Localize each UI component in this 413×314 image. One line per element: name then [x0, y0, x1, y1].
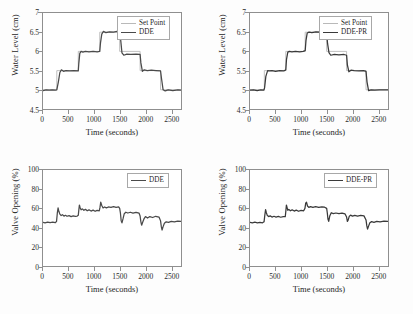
x-tick-mark — [42, 110, 43, 114]
series-set-point — [43, 32, 181, 90]
x-tick-mark — [94, 110, 95, 114]
x-axis-label: Time (seconds) — [42, 127, 182, 137]
x-tick-mark — [379, 110, 380, 114]
x-tick-label: 500 — [269, 115, 280, 124]
x-tick-label: 1500 — [319, 115, 334, 124]
legend-swatch — [121, 32, 136, 33]
x-tick-mark — [120, 267, 121, 271]
x-tick-labels: 05001000150020002500 — [42, 111, 182, 124]
x-tick-label: 1500 — [319, 272, 334, 281]
x-tick-label: 1500 — [112, 272, 127, 281]
y-tick-labels: 4.555.566.57 — [0, 12, 42, 110]
x-tick-label: 500 — [62, 272, 73, 281]
x-tick-label: 0 — [247, 115, 251, 124]
y-tick-label: 60 — [2, 204, 42, 213]
legend-label: DDE — [139, 28, 154, 37]
x-tick-mark — [68, 267, 69, 271]
y-tick-label: 5 — [209, 86, 249, 95]
y-tick-label: 40 — [2, 223, 42, 232]
legend-entry: DDE — [131, 176, 164, 185]
x-tick-label: 2500 — [371, 272, 386, 281]
y-tick-label: 6.5 — [209, 27, 249, 36]
y-tick-label: 20 — [209, 243, 249, 252]
x-tick-label: 2000 — [345, 272, 360, 281]
y-tick-label: 100 — [2, 165, 42, 174]
y-tick-label: 0 — [2, 263, 42, 272]
y-tick-label: 40 — [209, 223, 249, 232]
x-tick-label: 2000 — [138, 272, 153, 281]
x-tick-mark — [353, 110, 354, 114]
x-tick-mark — [94, 267, 95, 271]
y-tick-labels: 4.555.566.57 — [207, 12, 249, 110]
x-tick-mark — [146, 267, 147, 271]
x-tick-mark — [120, 110, 121, 114]
legend: Set PointDDE — [117, 16, 170, 40]
x-tick-label: 500 — [269, 272, 280, 281]
x-tick-mark — [275, 267, 276, 271]
x-tick-labels: 05001000150020002500 — [249, 268, 389, 281]
legend-entry: Set Point — [323, 19, 367, 28]
x-tick-mark — [301, 267, 302, 271]
x-tick-mark — [379, 267, 380, 271]
x-tick-labels: 05001000150020002500 — [42, 268, 182, 281]
y-tick-label: 4.5 — [2, 106, 42, 115]
legend: Set PointDDE-PR — [319, 16, 372, 40]
y-tick-labels: 020406080100 — [0, 169, 42, 267]
x-tick-mark — [275, 110, 276, 114]
panel-water-level-dde: Water Level (cm) 4.555.566.57 0500100015… — [0, 0, 206, 157]
panel-valve-opening-dde: Valve Opening (%) 020406080100 050010001… — [0, 157, 206, 314]
x-axis-label: Time (seconds) — [42, 284, 182, 294]
x-tick-mark — [301, 110, 302, 114]
series-dde — [43, 202, 181, 230]
x-tick-label: 1000 — [293, 115, 308, 124]
x-tick-label: 1000 — [293, 272, 308, 281]
x-tick-label: 2000 — [138, 115, 153, 124]
legend-swatch — [121, 23, 136, 24]
x-tick-mark — [172, 267, 173, 271]
y-tick-label: 100 — [209, 165, 249, 174]
x-tick-mark — [146, 110, 147, 114]
x-tick-mark — [68, 110, 69, 114]
y-tick-label: 80 — [209, 184, 249, 193]
legend: DDE-PR — [324, 173, 377, 188]
x-tick-label: 1000 — [86, 115, 101, 124]
x-tick-label: 1500 — [112, 115, 127, 124]
figure-canvas: Water Level (cm) 4.555.566.57 0500100015… — [0, 0, 413, 314]
legend-label: DDE-PR — [341, 28, 367, 37]
legend-swatch — [323, 23, 338, 24]
x-tick-label: 0 — [247, 272, 251, 281]
x-tick-mark — [172, 110, 173, 114]
x-tick-mark — [327, 110, 328, 114]
panel-water-level-ddepr: Water Level (cm) 4.555.566.57 0500100015… — [207, 0, 413, 157]
legend-swatch — [328, 180, 343, 181]
series-dde-pr — [250, 32, 388, 91]
x-tick-mark — [42, 267, 43, 271]
legend-label: DDE — [149, 176, 164, 185]
x-tick-label: 2000 — [345, 115, 360, 124]
panel-valve-opening-ddepr: Valve Opening (%) 020406080100 050010001… — [207, 157, 413, 314]
x-tick-mark — [327, 267, 328, 271]
y-tick-label: 7 — [209, 8, 249, 17]
x-tick-mark — [249, 267, 250, 271]
y-tick-labels: 020406080100 — [207, 169, 249, 267]
y-tick-label: 6.5 — [2, 27, 42, 36]
x-tick-label: 2500 — [164, 115, 179, 124]
y-tick-label: 60 — [209, 204, 249, 213]
x-tick-label: 2500 — [371, 115, 386, 124]
x-tick-labels: 05001000150020002500 — [249, 111, 389, 124]
y-tick-label: 20 — [2, 243, 42, 252]
legend-label: Set Point — [139, 19, 165, 28]
y-tick-label: 4.5 — [209, 106, 249, 115]
x-axis-label: Time (seconds) — [249, 284, 389, 294]
legend-entry: DDE — [121, 28, 165, 37]
y-tick-label: 6 — [209, 47, 249, 56]
y-tick-label: 80 — [2, 184, 42, 193]
y-tick-label: 5.5 — [2, 66, 42, 75]
x-tick-label: 500 — [62, 115, 73, 124]
legend-entry: Set Point — [121, 19, 165, 28]
y-tick-label: 6 — [2, 47, 42, 56]
x-axis-label: Time (seconds) — [249, 127, 389, 137]
x-tick-label: 1000 — [86, 272, 101, 281]
y-tick-label: 0 — [209, 263, 249, 272]
series-dde-pr — [250, 202, 388, 229]
